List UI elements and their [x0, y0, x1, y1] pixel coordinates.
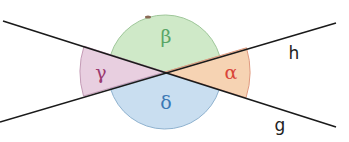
angle-alpha-label: α — [225, 61, 238, 83]
angle-delta-label: δ — [160, 91, 171, 113]
circle-mark — [145, 16, 151, 19]
angle-gamma-label: γ — [95, 61, 106, 83]
line-g-label: g — [275, 115, 286, 135]
angle-beta-label: β — [161, 25, 172, 47]
line-h-label: h — [289, 43, 300, 63]
angle-diagram: α β γ δ h g — [0, 0, 349, 142]
